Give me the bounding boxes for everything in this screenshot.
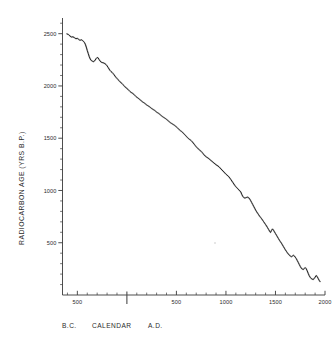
x-tick-label: 500 xyxy=(172,299,182,305)
tick-labels: 5001000150020002500500500100015002000 xyxy=(44,31,332,305)
axes xyxy=(63,18,326,295)
page-speck xyxy=(214,242,215,243)
tick-marks xyxy=(58,23,325,304)
x-tick-label: 2000 xyxy=(319,299,332,305)
curve-line xyxy=(67,34,320,282)
y-tick-label: 2000 xyxy=(44,83,57,89)
x-tick-label: 1000 xyxy=(220,299,233,305)
y-tick-label: 2500 xyxy=(44,31,57,37)
y-tick-label: 1500 xyxy=(44,135,57,141)
y-tick-label: 1000 xyxy=(44,188,57,194)
chart-canvas: 5001000150020002500500500100015002000 xyxy=(0,0,333,339)
calibration-curve xyxy=(67,34,320,282)
radiocarbon-calibration-chart: 5001000150020002500500500100015002000 RA… xyxy=(0,0,333,339)
x-tick-label: 500 xyxy=(73,299,83,305)
x-tick-label: 1500 xyxy=(269,299,282,305)
y-tick-label: 500 xyxy=(47,240,57,246)
